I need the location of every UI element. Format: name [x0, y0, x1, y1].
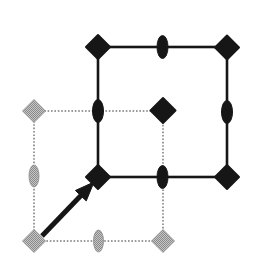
gray-ellipse-bottom-mid — [94, 230, 104, 252]
diagram-canvas — [0, 0, 266, 276]
black-ellipse-right-mid — [222, 101, 233, 124]
black-ellipse-bottom-mid — [157, 166, 168, 189]
black-ellipse-top-mid — [157, 36, 168, 59]
black-ellipse-left-mid — [93, 100, 104, 123]
gray-ellipse-left-mid — [29, 165, 39, 187]
figure — [0, 0, 266, 276]
